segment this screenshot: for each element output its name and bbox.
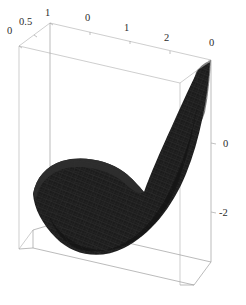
surface-dark-body	[33, 62, 210, 268]
tick-label-z-neg2: -2	[219, 207, 228, 218]
tick-label-u-05: 0.5	[19, 16, 32, 27]
tick-label-v-1: 1	[124, 22, 129, 33]
tick-label-u-0: 0	[7, 25, 12, 36]
tick-label-v-2: 2	[164, 32, 169, 43]
tick-label-u-1: 1	[45, 7, 50, 18]
tick-label-v-0: 0	[85, 12, 90, 23]
surface-plot-figure: 0 0.5 1 0 1 2 0 0 -2	[0, 0, 246, 305]
tick-label-z-0: 0	[223, 138, 228, 149]
tick-label-v-right-0: 0	[209, 37, 214, 48]
plot-canvas: 0 0.5 1 0 1 2 0 0 -2	[0, 0, 246, 305]
